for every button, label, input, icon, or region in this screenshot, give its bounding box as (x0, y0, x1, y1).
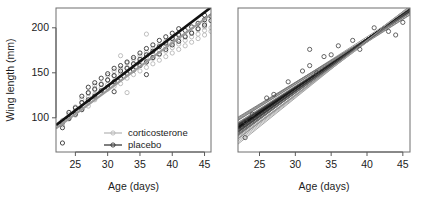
data-point (112, 90, 116, 94)
data-point (93, 81, 97, 85)
series-points-placebo (60, 13, 212, 145)
y-tick-label: 200 (31, 21, 49, 33)
data-point (300, 69, 304, 73)
data-point (164, 55, 168, 59)
data-point (106, 78, 110, 82)
data-point (60, 141, 64, 145)
fit-line-placebo (56, 7, 211, 125)
data-point (157, 58, 161, 62)
x-axis-title: Age (days) (108, 180, 159, 192)
data-point (138, 69, 142, 73)
data-point (394, 33, 398, 37)
x-tick-label: 40 (166, 158, 178, 170)
x-tick-label: 30 (102, 158, 114, 170)
subject-line-44 (238, 13, 410, 121)
x-tick-label: 30 (289, 158, 301, 170)
data-point (144, 32, 148, 36)
data-point (80, 94, 84, 98)
data-point (118, 54, 122, 58)
data-point (190, 40, 194, 44)
figure-container: 100150200Wing length (mm)2530354045Age (… (0, 0, 423, 213)
x-axis-title: Age (days) (299, 180, 350, 192)
data-point (157, 38, 161, 42)
data-point (202, 33, 206, 37)
right-plot-area (238, 6, 410, 144)
x-tick-label: 25 (254, 158, 266, 170)
data-point (351, 38, 355, 42)
subject-line-47 (238, 6, 410, 144)
y-tick-label: 150 (31, 66, 49, 78)
panel-right-spaghetti: 2530354045Age (days) (211, 0, 423, 213)
data-point (60, 126, 64, 130)
y-tick-label: 100 (31, 111, 49, 123)
legend: corticosteroneplacebo (104, 127, 188, 150)
right-panel-svg: 2530354045Age (days) (211, 0, 423, 213)
data-point (99, 76, 103, 80)
data-point (144, 73, 148, 77)
left-panel-svg: 100150200Wing length (mm)2530354045Age (… (0, 0, 212, 213)
data-point (386, 29, 390, 33)
x-tick-label: 45 (397, 158, 409, 170)
data-point (286, 80, 290, 84)
data-point (151, 62, 155, 66)
data-point (336, 44, 340, 48)
x-tick-label: 25 (70, 158, 82, 170)
data-point (112, 66, 116, 70)
data-point (196, 32, 200, 36)
x-tick-label: 35 (134, 158, 146, 170)
panel-left-scatter: 100150200Wing length (mm)2530354045Age (… (0, 0, 212, 213)
subject-line-39 (238, 13, 410, 123)
data-point (308, 64, 312, 68)
data-point (183, 44, 187, 48)
data-point (177, 47, 181, 51)
data-point (138, 51, 142, 55)
subject-line-45 (238, 9, 410, 135)
data-point (170, 51, 174, 55)
legend-label-placebo: placebo (128, 139, 161, 150)
y-axis-title: Wing length (mm) (4, 39, 16, 122)
fit-line-corticosterone (56, 14, 211, 128)
data-point (401, 20, 405, 24)
data-point (329, 53, 333, 57)
data-point (164, 35, 168, 39)
x-tick-label: 35 (325, 158, 337, 170)
legend-label-corticosterone: corticosterone (128, 127, 188, 138)
data-point (322, 55, 326, 59)
data-point (144, 65, 148, 69)
x-tick-label: 40 (361, 158, 373, 170)
data-point (118, 64, 122, 68)
data-point (86, 85, 90, 89)
data-point (308, 47, 312, 51)
data-point (118, 69, 122, 73)
left-plot-area (56, 7, 212, 145)
data-point (372, 26, 376, 30)
data-point (125, 91, 129, 95)
x-tick-label: 45 (199, 158, 211, 170)
data-point (196, 37, 200, 41)
